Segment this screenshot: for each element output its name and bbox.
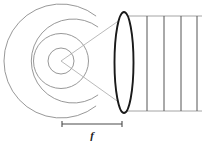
optics-diagram-figure: f [0, 0, 202, 144]
figure-background [0, 0, 202, 144]
diagram-canvas: f [0, 0, 202, 144]
converging-lens [115, 12, 134, 113]
